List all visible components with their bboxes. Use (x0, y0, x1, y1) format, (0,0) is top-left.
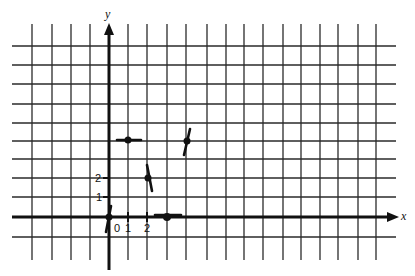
point-1-4 (125, 137, 132, 144)
y-axis-label: y (104, 7, 111, 21)
point-3-0 (163, 213, 171, 221)
y-axis-arrow-icon (104, 23, 114, 35)
x-tick-label-0: 0 (114, 222, 120, 234)
y-tick-label-1: 1 (96, 191, 102, 203)
point-2-2 (145, 175, 152, 182)
x-axis-arrow-icon (387, 212, 399, 222)
y-tick-label-2: 2 (95, 172, 101, 184)
point-0-0 (106, 214, 113, 221)
x-tick-label-2: 2 (144, 222, 150, 234)
x-tick-label-1: 1 (125, 222, 131, 234)
data-points (106, 137, 191, 222)
x-axis-label: x (400, 209, 407, 223)
point-4-4 (184, 138, 191, 145)
coordinate-graph: x y 0 1 2 2 1 (0, 0, 415, 276)
grid-lines (12, 24, 396, 260)
